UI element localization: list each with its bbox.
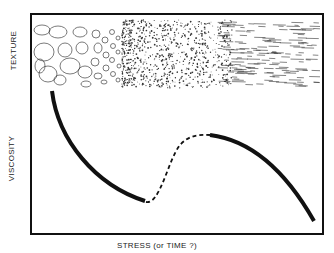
texture-fine-grain [121, 19, 232, 88]
diagram-canvas [0, 0, 334, 253]
x-axis-label: STRESS (or TIME ?) [117, 241, 197, 250]
texture-label: TEXTURE [9, 31, 18, 70]
viscosity-curve-dashed [146, 135, 210, 202]
texture-band [34, 25, 121, 87]
viscosity-curve-solid-1 [52, 91, 145, 201]
viscosity-curve-solid-2 [210, 135, 314, 221]
frame [31, 14, 323, 234]
texture-streaks [217, 22, 320, 86]
viscosity-label: VISCOSITY [7, 136, 16, 181]
